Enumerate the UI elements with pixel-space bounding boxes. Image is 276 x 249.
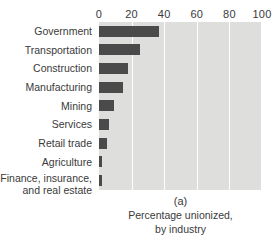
y-category-line: Construction <box>33 63 92 74</box>
y-category-text: Transportation <box>25 45 92 56</box>
y-category-label: Government <box>0 22 96 41</box>
y-category-text: Government <box>34 26 92 37</box>
y-axis: GovernmentTransportationConstructionManu… <box>0 22 96 190</box>
caption-line-1: Percentage unionized, <box>99 208 262 222</box>
y-category-line: Agriculture <box>42 157 92 168</box>
x-tick-label: 40 <box>158 8 171 20</box>
bar <box>99 156 102 167</box>
y-category-label: Services <box>0 115 96 134</box>
bar <box>99 26 159 37</box>
y-category-line: Services <box>52 119 92 130</box>
panel-letter: (a) <box>99 194 262 208</box>
y-category-line: Government <box>34 26 92 37</box>
x-axis: 020406080100 <box>99 8 262 22</box>
bar-row <box>99 41 262 60</box>
bar <box>99 44 140 55</box>
bar-row <box>99 153 262 172</box>
bar-row <box>99 97 262 116</box>
x-tick-label: 0 <box>96 8 102 20</box>
bar-row <box>99 22 262 41</box>
y-category-text: Retail trade <box>38 138 92 149</box>
caption-line-2: by industry <box>99 222 262 236</box>
x-tick-label: 20 <box>125 8 138 20</box>
y-category-line: Mining <box>61 101 92 112</box>
bar <box>99 100 114 111</box>
bar <box>99 175 102 186</box>
x-tick-label: 60 <box>190 8 203 20</box>
figure-panel-a: 020406080100 GovernmentTransportationCon… <box>0 0 276 249</box>
bar-row <box>99 78 262 97</box>
y-category-text: Mining <box>61 101 92 112</box>
bar-row <box>99 59 262 78</box>
y-category-line: Finance, insurance, <box>0 172 92 184</box>
bar <box>99 82 123 93</box>
bar <box>99 138 107 149</box>
y-category-label: Retail trade <box>0 134 96 153</box>
x-tick-label: 80 <box>223 8 236 20</box>
cropped-title-remnant <box>104 0 254 4</box>
bars-layer <box>99 22 262 190</box>
y-category-line: and real estate <box>0 184 92 196</box>
y-category-text: Agriculture <box>42 157 92 168</box>
y-category-line: Retail trade <box>38 138 92 149</box>
y-category-text: Finance, insurance,and real estate <box>0 172 92 196</box>
bar-row <box>99 115 262 134</box>
y-category-label: Transportation <box>0 41 96 60</box>
x-tick-label: 100 <box>253 8 272 20</box>
y-category-label: Manufacturing <box>0 78 96 97</box>
y-category-line: Manufacturing <box>25 82 92 93</box>
figure-caption: (a) Percentage unionized, by industry <box>99 194 262 236</box>
bar-row <box>99 134 262 153</box>
bar-row <box>99 171 262 190</box>
bar <box>99 63 128 74</box>
y-category-label: Finance, insurance,and real estate <box>0 171 96 190</box>
y-category-line: Transportation <box>25 45 92 56</box>
y-category-text: Manufacturing <box>25 82 92 93</box>
y-category-label: Agriculture <box>0 153 96 172</box>
y-category-text: Services <box>52 119 92 130</box>
bar <box>99 119 109 130</box>
y-category-text: Construction <box>33 63 92 74</box>
y-category-label: Construction <box>0 59 96 78</box>
y-category-label: Mining <box>0 97 96 116</box>
